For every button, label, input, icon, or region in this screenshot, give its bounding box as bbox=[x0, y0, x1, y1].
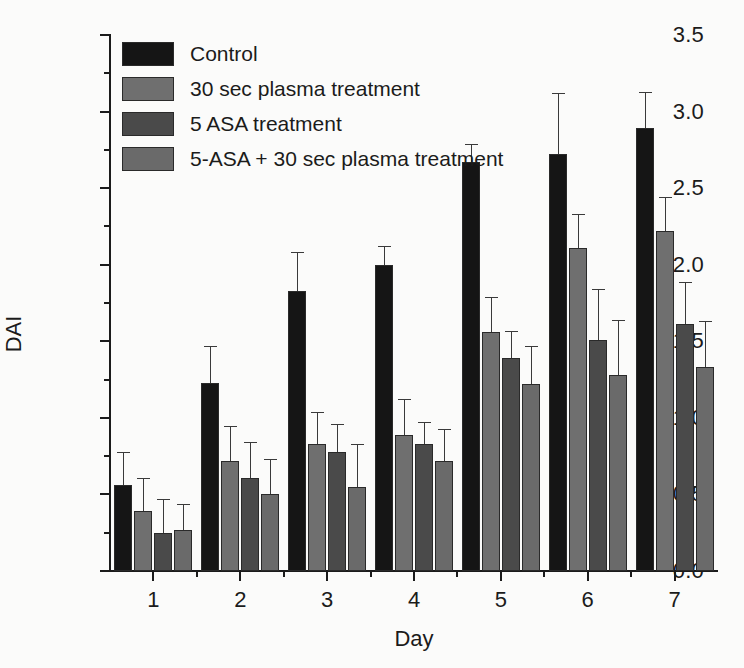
legend-item: 5-ASA + 30 sec plasma treatment bbox=[122, 141, 592, 176]
error-bar-line bbox=[210, 346, 211, 383]
y-tick-major bbox=[100, 264, 110, 266]
y-tick-label: 2.5 bbox=[673, 175, 704, 201]
error-bar-line bbox=[384, 246, 385, 264]
error-bar-cap bbox=[137, 478, 150, 479]
bar bbox=[502, 358, 520, 571]
error-bar-line bbox=[297, 252, 298, 290]
error-bar-line bbox=[123, 452, 124, 486]
bar bbox=[415, 444, 433, 571]
y-tick-major bbox=[100, 570, 110, 572]
y-tick-major bbox=[100, 493, 110, 495]
error-bar-line bbox=[665, 197, 666, 231]
legend-label: Control bbox=[190, 42, 258, 66]
bar bbox=[288, 291, 306, 571]
bar bbox=[241, 478, 259, 571]
x-tick-label: 4 bbox=[408, 587, 420, 613]
error-bar-line bbox=[531, 346, 532, 384]
bar bbox=[375, 265, 393, 571]
error-bar-line bbox=[598, 289, 599, 340]
error-bar-line bbox=[317, 412, 318, 444]
y-tick-label: 3.0 bbox=[673, 99, 704, 125]
bar bbox=[589, 340, 607, 571]
bar bbox=[328, 452, 346, 571]
legend-swatch bbox=[122, 147, 174, 171]
x-tick-label: 2 bbox=[234, 587, 246, 613]
y-tick-minor bbox=[104, 149, 110, 151]
y-tick-minor bbox=[104, 302, 110, 304]
error-bar-line bbox=[357, 444, 358, 487]
bar bbox=[462, 162, 480, 571]
y-tick-major bbox=[100, 417, 110, 419]
error-bar-line bbox=[491, 297, 492, 332]
error-bar-cap bbox=[157, 499, 170, 500]
bar bbox=[134, 511, 152, 571]
bar bbox=[609, 375, 627, 571]
error-bar-cap bbox=[204, 346, 217, 347]
error-bar-cap bbox=[351, 444, 364, 445]
bar bbox=[154, 533, 172, 571]
x-tick-minor bbox=[630, 571, 632, 577]
error-bar-cap bbox=[525, 346, 538, 347]
x-tick-major bbox=[326, 571, 328, 581]
y-tick-minor bbox=[104, 379, 110, 381]
x-tick-label: 6 bbox=[582, 587, 594, 613]
bar bbox=[114, 485, 132, 571]
error-bar-cap bbox=[505, 331, 518, 332]
error-bar-line bbox=[444, 429, 445, 461]
bar bbox=[174, 530, 192, 571]
error-bar-cap bbox=[659, 197, 672, 198]
error-bar-line bbox=[337, 424, 338, 452]
error-bar-cap bbox=[592, 289, 605, 290]
x-tick-label: 7 bbox=[668, 587, 680, 613]
x-tick-major bbox=[500, 571, 502, 581]
y-axis-title: DAI bbox=[1, 316, 27, 353]
bar-chart-figure: DAI Day 0.00.51.01.52.02.53.03.5 1234567… bbox=[0, 0, 744, 668]
error-bar-cap bbox=[572, 214, 585, 215]
error-bar-cap bbox=[291, 252, 304, 253]
legend-label: 5 ASA treatment bbox=[190, 112, 342, 136]
bar bbox=[395, 435, 413, 571]
error-bar-line bbox=[270, 459, 271, 494]
bar bbox=[636, 128, 654, 571]
y-tick-minor bbox=[104, 72, 110, 74]
x-tick-major bbox=[152, 571, 154, 581]
y-tick-major bbox=[100, 187, 110, 189]
legend-swatch bbox=[122, 77, 174, 101]
error-bar-cap bbox=[612, 320, 625, 321]
error-bar-line bbox=[230, 426, 231, 461]
bar bbox=[656, 231, 674, 571]
x-tick-minor bbox=[456, 571, 458, 577]
bar bbox=[201, 383, 219, 571]
chart-legend: Control30 sec plasma treatment5 ASA trea… bbox=[122, 36, 592, 176]
bar bbox=[308, 444, 326, 571]
error-bar-line bbox=[685, 282, 686, 325]
x-tick-label: 1 bbox=[147, 587, 159, 613]
error-bar-line bbox=[511, 331, 512, 359]
y-tick-minor bbox=[104, 225, 110, 227]
y-tick-label: 3.5 bbox=[673, 22, 704, 48]
error-bar-line bbox=[250, 442, 251, 477]
error-bar-line bbox=[404, 399, 405, 434]
x-tick-label: 5 bbox=[495, 587, 507, 613]
error-bar-line bbox=[143, 478, 144, 512]
y-tick-minor bbox=[104, 455, 110, 457]
error-bar-cap bbox=[639, 92, 652, 93]
error-bar-line bbox=[163, 499, 164, 533]
error-bar-line bbox=[618, 320, 619, 375]
x-tick-minor bbox=[283, 571, 285, 577]
error-bar-cap bbox=[224, 426, 237, 427]
y-tick-major bbox=[100, 34, 110, 36]
legend-item: Control bbox=[122, 36, 592, 71]
legend-item: 30 sec plasma treatment bbox=[122, 71, 592, 106]
error-bar-cap bbox=[679, 282, 692, 283]
legend-label: 30 sec plasma treatment bbox=[190, 77, 420, 101]
x-tick-major bbox=[413, 571, 415, 581]
legend-swatch bbox=[122, 42, 174, 66]
x-tick-major bbox=[674, 571, 676, 581]
x-axis-title: Day bbox=[394, 626, 433, 652]
x-tick-minor bbox=[543, 571, 545, 577]
error-bar-cap bbox=[177, 504, 190, 505]
legend-label: 5-ASA + 30 sec plasma treatment bbox=[190, 147, 503, 171]
y-tick-major bbox=[100, 111, 110, 113]
x-tick-major bbox=[587, 571, 589, 581]
